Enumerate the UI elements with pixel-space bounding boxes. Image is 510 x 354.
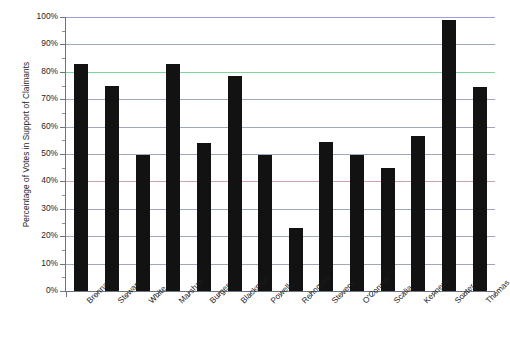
x-tick [97, 292, 98, 297]
x-tick [219, 292, 220, 297]
bar[interactable] [228, 76, 242, 291]
y-minor-tick [62, 223, 65, 224]
y-tick-label: 60% [0, 122, 58, 130]
y-minor-tick [62, 113, 65, 114]
bar[interactable] [74, 64, 88, 291]
bar[interactable] [197, 143, 211, 291]
y-tick-label: 10% [0, 259, 58, 267]
bar[interactable] [381, 168, 395, 291]
bar[interactable] [289, 228, 303, 291]
gridline-10 [66, 264, 495, 265]
gridline-90 [66, 44, 495, 45]
x-tick [66, 292, 67, 297]
y-tick-label: 70% [0, 94, 58, 102]
bar[interactable] [350, 155, 364, 291]
bar[interactable] [411, 136, 425, 291]
gridline-50 [66, 154, 495, 155]
y-tick-30 [60, 209, 65, 210]
y-tick-label: 90% [0, 39, 58, 47]
y-tick-label: 50% [0, 149, 58, 157]
y-minor-tick [62, 250, 65, 251]
bar[interactable] [105, 86, 119, 292]
y-tick-0 [60, 291, 65, 292]
y-tick-40 [60, 181, 65, 182]
x-tick [158, 292, 159, 297]
y-minor-tick [62, 86, 65, 87]
y-minor-tick [62, 31, 65, 32]
y-tick-90 [60, 44, 65, 45]
bar[interactable] [442, 20, 456, 291]
y-minor-tick [62, 168, 65, 169]
y-tick-label: 40% [0, 176, 58, 184]
gridline-100 [66, 17, 495, 18]
x-tick [372, 292, 373, 297]
gridline-60 [66, 127, 495, 128]
y-minor-tick [62, 277, 65, 278]
plot-area [66, 17, 495, 291]
y-tick-label: 100% [0, 12, 58, 20]
y-tick-50 [60, 154, 65, 155]
gridline-40 [66, 181, 495, 182]
y-minor-tick [62, 58, 65, 59]
gridline-30 [66, 209, 495, 210]
y-tick-60 [60, 127, 65, 128]
y-tick-10 [60, 264, 65, 265]
y-tick-20 [60, 236, 65, 237]
x-tick [403, 292, 404, 297]
y-axis-line [65, 17, 66, 292]
y-minor-tick [62, 195, 65, 196]
x-tick [250, 292, 251, 297]
x-tick [189, 292, 190, 297]
x-tick [311, 292, 312, 297]
bar[interactable] [258, 155, 272, 291]
gridline-80 [66, 72, 495, 73]
bar[interactable] [319, 142, 333, 291]
x-tick [495, 292, 496, 297]
gridline-70 [66, 99, 495, 100]
x-tick [342, 292, 343, 297]
bar[interactable] [136, 155, 150, 291]
x-tick [434, 292, 435, 297]
x-tick [127, 292, 128, 297]
bar[interactable] [473, 87, 487, 291]
y-tick-label: 30% [0, 204, 58, 212]
x-tick [464, 292, 465, 297]
bar[interactable] [166, 64, 180, 291]
y-tick-80 [60, 72, 65, 73]
y-tick-100 [60, 17, 65, 18]
y-tick-70 [60, 99, 65, 100]
y-tick-label: 80% [0, 67, 58, 75]
gridline-20 [66, 236, 495, 237]
y-tick-label: 0% [0, 286, 58, 294]
x-tick [281, 292, 282, 297]
y-tick-label: 20% [0, 231, 58, 239]
y-minor-tick [62, 140, 65, 141]
bar-chart: Percentage of Votes in Support of Claima… [0, 0, 510, 354]
